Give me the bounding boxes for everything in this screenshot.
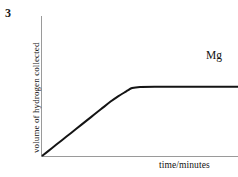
y-axis-label: volume of hydrogen collected bbox=[30, 25, 42, 153]
chemistry-graph-figure: 3 volume of hydrogen collected time/minu… bbox=[0, 0, 238, 177]
series-label-mg: Mg bbox=[206, 49, 222, 62]
x-axis-label: time/minutes bbox=[159, 159, 210, 171]
series-curve-mg bbox=[42, 87, 238, 156]
